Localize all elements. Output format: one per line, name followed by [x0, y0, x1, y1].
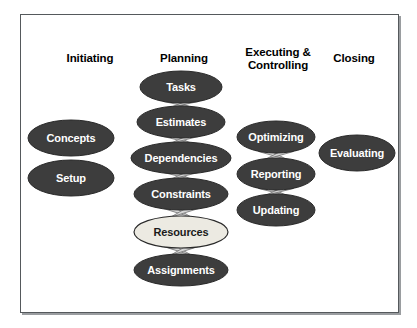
node-ellipse-dependencies[interactable] [131, 142, 231, 174]
node-ellipse-setup[interactable] [28, 160, 114, 196]
diagram-canvas: InitiatingPlanningExecuting & Controllin… [0, 0, 417, 328]
node-ellipse-resources[interactable] [134, 216, 228, 248]
node-ellipse-reporting[interactable] [237, 158, 315, 190]
node-ellipse-updating[interactable] [237, 194, 315, 226]
node-ellipse-evaluating[interactable] [319, 135, 395, 171]
node-ellipse-assignments[interactable] [134, 254, 228, 286]
node-ellipse-optimizing[interactable] [237, 121, 315, 153]
node-ellipse-concepts[interactable] [28, 120, 114, 156]
column-header-closing: Closing [284, 52, 417, 65]
node-ellipse-tasks[interactable] [140, 71, 222, 103]
node-ellipse-constraints[interactable] [134, 178, 228, 210]
nodes-layer [28, 71, 395, 286]
node-ellipse-estimates[interactable] [137, 106, 225, 138]
